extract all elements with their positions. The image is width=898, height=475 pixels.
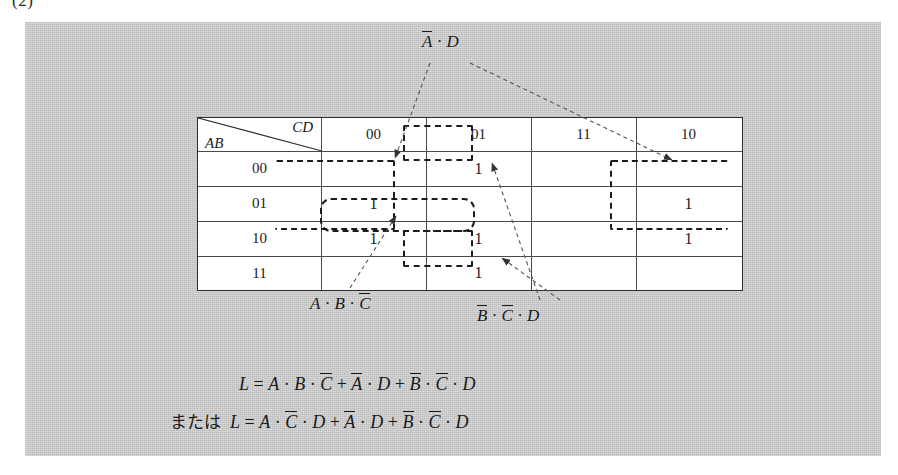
annotation-a-b-not-c: A · B · C (310, 294, 370, 314)
kmap-cell-r1c0: 1 (321, 186, 426, 221)
kmap-row-header-2: 10 (198, 221, 321, 256)
kmap-col-variable: CD (292, 119, 313, 136)
kmap-cell-r2c3: 1 (636, 221, 741, 256)
kmap-cell-r0c2 (531, 151, 636, 186)
kmap-cell-r0c3 (636, 151, 741, 186)
kmap-col-header-3: 10 (636, 118, 741, 151)
kmap-col-header-2: 11 (531, 118, 636, 151)
kmap-row-header-1: 01 (198, 186, 321, 221)
annotation-not-b-not-c-d: B · C · D (477, 306, 539, 326)
kmap-cell-r1c3: 1 (636, 186, 741, 221)
kmap-cell-r0c0 (321, 151, 426, 186)
kmap-cell-r3c3 (636, 256, 741, 290)
karnaugh-map-table: CD AB 00 01 11 10 00 01 10 11 1 1 1 1 (197, 117, 743, 291)
kmap-col-header-1: 01 (426, 118, 531, 151)
kmap-corner-cell: CD AB (198, 118, 322, 152)
kmap-cell-r2c2 (531, 221, 636, 256)
equation-line-1: L = A · B · C + A · D + B · C · D (239, 374, 476, 395)
kmap-cell-r3c2 (531, 256, 636, 290)
kmap-cell-r3c0 (321, 256, 426, 290)
kmap-row-header-3: 11 (198, 256, 321, 290)
kmap-cell-r2c0: 1 (321, 221, 426, 256)
kmap-col-header-0: 00 (321, 118, 426, 151)
kmap-cell-r1c2 (531, 186, 636, 221)
kmap-row-variable: AB (205, 135, 223, 152)
figure-root: (2) CD AB 00 01 11 (0, 0, 898, 475)
kmap-cell-r0c1: 1 (426, 151, 531, 186)
equation-line-2: または L = A · C · D + A · D + B · C · D (170, 408, 469, 433)
kmap-cell-r3c1: 1 (426, 256, 531, 290)
kmap-cell-r1c1 (426, 186, 531, 221)
figure-number: (2) (12, 0, 33, 11)
kmap-row-header-0: 00 (198, 151, 321, 186)
equation-line-2-prefix: または (170, 412, 221, 432)
kmap-cell-r2c1: 1 (426, 221, 531, 256)
figure-panel: CD AB 00 01 11 10 00 01 10 11 1 1 1 1 (25, 22, 881, 456)
annotation-not-a-d: A · D (422, 32, 459, 52)
